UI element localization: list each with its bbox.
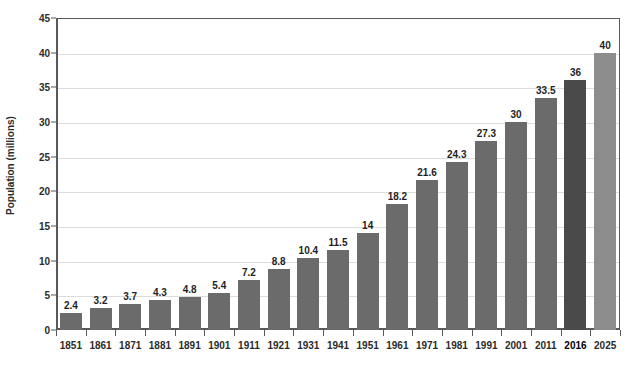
bar: [594, 53, 616, 330]
y-axis-title: Population (millions): [0, 0, 20, 330]
bar-value-label: 2.4: [64, 300, 78, 311]
bar-value-label: 10.4: [299, 245, 318, 256]
bar-group: 4.8: [176, 18, 204, 330]
bar-group: 3.2: [87, 18, 115, 330]
x-tick-mark: [264, 330, 265, 336]
bar: [357, 233, 379, 330]
bar: [149, 300, 171, 330]
bar: [268, 269, 290, 330]
bar-value-label: 14: [362, 220, 373, 231]
bar: [475, 141, 497, 330]
bar-group: 33.5: [532, 18, 560, 330]
bars-layer: 2.43.23.74.34.85.47.28.810.411.51418.221…: [56, 18, 620, 330]
bar-value-label: 30: [511, 109, 522, 120]
y-tick-label: 45: [24, 13, 50, 24]
y-tick-label: 35: [24, 82, 50, 93]
x-tick-mark: [234, 330, 235, 336]
bar: [119, 304, 141, 330]
x-tick-mark: [620, 330, 621, 336]
bar-value-label: 4.3: [153, 287, 167, 298]
bar-group: 36: [561, 18, 589, 330]
bar-group: 3.7: [116, 18, 144, 330]
x-tick-mark: [175, 330, 176, 336]
x-axis: 1851186118711881189119011911192119311941…: [56, 330, 620, 365]
bar-group: 10.4: [294, 18, 322, 330]
bar: [564, 80, 586, 330]
bar-group: 8.8: [265, 18, 293, 330]
bar-group: 40: [591, 18, 619, 330]
y-tick-label: 10: [24, 255, 50, 266]
bar-value-label: 40: [600, 40, 611, 51]
x-tick-mark: [115, 330, 116, 336]
bar-group: 14: [354, 18, 382, 330]
bar-group: 5.4: [205, 18, 233, 330]
x-tick-label: 2025: [585, 340, 625, 351]
bar-group: 2.4: [57, 18, 85, 330]
bar: [297, 258, 319, 330]
bar-group: 30: [502, 18, 530, 330]
bar: [386, 204, 408, 330]
x-tick-mark: [561, 330, 562, 336]
x-tick-mark: [86, 330, 87, 336]
bar: [327, 250, 349, 330]
bar-value-label: 3.2: [94, 295, 108, 306]
x-tick-mark: [472, 330, 473, 336]
bar-group: 4.3: [146, 18, 174, 330]
y-tick-label: 0: [24, 325, 50, 336]
bar: [60, 313, 82, 330]
x-tick-mark: [590, 330, 591, 336]
x-tick-mark: [412, 330, 413, 336]
x-tick-mark: [204, 330, 205, 336]
bar-value-label: 21.6: [417, 167, 436, 178]
y-tick-label: 15: [24, 221, 50, 232]
x-tick-mark: [145, 330, 146, 336]
x-tick-mark: [383, 330, 384, 336]
x-tick-mark: [353, 330, 354, 336]
population-bar-chart: Population (millions) 051015202530354045…: [0, 0, 632, 365]
bar-group: 27.3: [472, 18, 500, 330]
bar-group: 24.3: [443, 18, 471, 330]
bar-value-label: 8.8: [272, 256, 286, 267]
bar-value-label: 18.2: [388, 191, 407, 202]
y-tick-label: 5: [24, 290, 50, 301]
bar-value-label: 36: [570, 67, 581, 78]
x-tick-mark: [56, 330, 57, 336]
bar-value-label: 33.5: [536, 85, 555, 96]
bar-value-label: 3.7: [123, 291, 137, 302]
bar-value-label: 27.3: [477, 128, 496, 139]
bar-group: 11.5: [324, 18, 352, 330]
bar: [535, 98, 557, 330]
bar-group: 21.6: [413, 18, 441, 330]
bar: [179, 297, 201, 330]
y-tick-label: 30: [24, 117, 50, 128]
x-tick-mark: [442, 330, 443, 336]
bar-value-label: 24.3: [447, 149, 466, 160]
x-tick-mark: [293, 330, 294, 336]
bar-value-label: 7.2: [242, 267, 256, 278]
bar: [90, 308, 112, 330]
bar-value-label: 11.5: [329, 237, 348, 248]
x-tick-mark: [501, 330, 502, 336]
bar-value-label: 4.8: [183, 284, 197, 295]
bar-group: 7.2: [235, 18, 263, 330]
y-tick-label: 20: [24, 186, 50, 197]
bar: [446, 162, 468, 330]
bar: [416, 180, 438, 330]
x-tick-mark: [531, 330, 532, 336]
bar: [238, 280, 260, 330]
x-tick-mark: [323, 330, 324, 336]
bar-value-label: 5.4: [212, 280, 226, 291]
bar: [505, 122, 527, 330]
bar: [208, 293, 230, 330]
y-tick-label: 25: [24, 151, 50, 162]
y-axis-title-label: Population (millions): [5, 116, 16, 215]
y-tick-label: 40: [24, 47, 50, 58]
bar-group: 18.2: [383, 18, 411, 330]
